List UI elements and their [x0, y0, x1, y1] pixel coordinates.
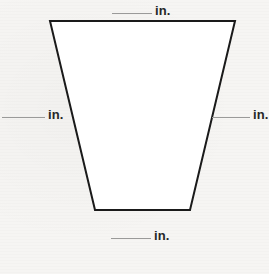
- top-side-measurement[interactable]: in.: [112, 4, 170, 17]
- left-blank-line[interactable]: [2, 117, 45, 118]
- bottom-side-measurement[interactable]: in.: [111, 229, 169, 242]
- bottom-blank-line[interactable]: [111, 238, 151, 239]
- trapezoid-outline: [50, 21, 235, 210]
- left-unit-label: in.: [48, 108, 63, 121]
- top-unit-label: in.: [155, 4, 170, 17]
- right-unit-label: in.: [253, 108, 268, 121]
- left-side-measurement[interactable]: in.: [2, 108, 63, 121]
- top-blank-line[interactable]: [112, 13, 152, 14]
- worksheet-canvas: in. in. in. in.: [0, 0, 269, 274]
- right-blank-line[interactable]: [212, 117, 250, 118]
- right-side-measurement[interactable]: in.: [212, 108, 268, 121]
- bottom-unit-label: in.: [154, 229, 169, 242]
